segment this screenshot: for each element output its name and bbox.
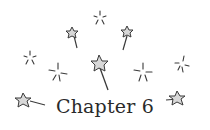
sparkle-icon <box>94 11 106 24</box>
wand-star-icon <box>121 26 133 37</box>
wand-star-icon <box>66 27 78 38</box>
sparkle-icon <box>49 63 67 81</box>
wand-star-icon <box>15 93 31 107</box>
wand-star-icon <box>169 91 185 105</box>
wand-star-icon <box>91 55 108 71</box>
sparkle-icon <box>24 51 36 64</box>
sparkle-icon <box>134 63 152 81</box>
sparkle-icon <box>175 56 189 72</box>
chapter-title: Chapter 6 <box>50 95 160 117</box>
